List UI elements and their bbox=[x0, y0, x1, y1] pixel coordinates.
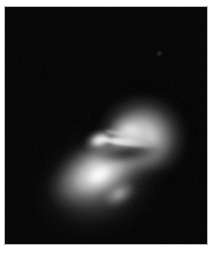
sky-field bbox=[5, 7, 207, 244]
upper-lobe-core bbox=[105, 106, 159, 156]
lower-disk-body bbox=[26, 108, 173, 233]
dust-lane bbox=[90, 139, 166, 168]
bridge-jet-secondary bbox=[105, 128, 149, 142]
lower-disk-core bbox=[69, 148, 130, 201]
upper-lobe-body bbox=[96, 81, 195, 176]
field-star-icon bbox=[157, 51, 162, 56]
image-grain-overlay bbox=[5, 7, 207, 244]
lower-disk-secondary-knot bbox=[98, 176, 140, 213]
lower-disk-halo bbox=[9, 97, 191, 244]
astronomical-plate bbox=[0, 0, 222, 261]
bridge-knot bbox=[80, 124, 119, 155]
upper-lobe-halo bbox=[93, 79, 201, 183]
bridge-jet bbox=[101, 136, 159, 149]
